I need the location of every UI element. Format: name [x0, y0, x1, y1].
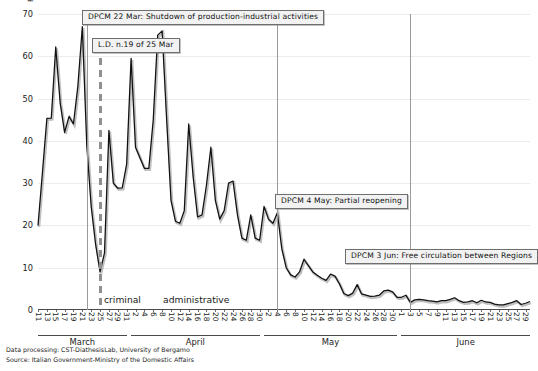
x-axis-tick-label: 26	[238, 312, 245, 321]
y-axis-tick-label: 30	[23, 178, 33, 188]
y-axis-tick-label: 40	[23, 136, 33, 146]
x-axis-tick-label: 15	[460, 312, 467, 321]
x-axis-tick-label: 20	[212, 312, 219, 321]
x-axis-tick-label: 15	[52, 312, 59, 321]
x-axis-tick-label: 14	[318, 312, 325, 321]
x-axis-tick-label: 8	[291, 312, 298, 317]
x-axis-tick-label: 14	[185, 312, 192, 321]
x-axis-tick-label: 30	[256, 312, 263, 321]
credits-data-processing: Data processing: CST-DiathesisLab, Unive…	[6, 345, 194, 355]
data-series-line	[38, 14, 530, 310]
x-axis-tick-label: 19	[70, 312, 77, 321]
x-axis-tick-label: 30	[389, 312, 396, 321]
x-axis-tick-label: 29	[114, 312, 121, 321]
y-axis-tick-label: 50	[23, 94, 33, 104]
x-axis-tick-label: 6	[283, 312, 290, 317]
annotation-reopening: DPCM 4 May: Partial reopening	[275, 194, 408, 209]
x-axis-tick-label: 8	[158, 312, 165, 317]
y-axis-tick-label: 70	[23, 9, 33, 19]
x-axis-tick-label: 1	[398, 312, 405, 317]
x-axis-tick-label: 21	[486, 312, 493, 321]
x-axis-tick-label: 10	[300, 312, 307, 321]
month-rule	[264, 335, 397, 336]
credits-source: Source: Italian Government-Ministry of t…	[6, 355, 194, 365]
annotation-ld19: L.D. n.19 of 25 Mar	[92, 38, 180, 53]
credits-block: Data processing: CST-DiathesisLab, Unive…	[6, 345, 194, 365]
x-axis-tick-label: 23	[87, 312, 94, 321]
annotation-shutdown: DPCM 22 Mar: Shutdown of production-indu…	[82, 10, 324, 25]
x-axis-tick-label: 13	[451, 312, 458, 321]
x-axis-tick-label: 29	[522, 312, 529, 321]
x-axis-tick-label: 11	[442, 312, 449, 321]
month-label-june: June	[457, 337, 475, 347]
x-axis-tick-label: 25	[96, 312, 103, 321]
x-axis-tick-label: 6	[150, 312, 157, 317]
x-axis-tick-label: 22	[220, 312, 227, 321]
annotation-free-movement: DPCM 3 Jun: Free circulation between Reg…	[345, 249, 538, 264]
x-axis-tick-label: 3	[407, 312, 414, 317]
x-axis-tick-label: 4	[274, 312, 281, 317]
x-axis-tick-label: 19	[478, 312, 485, 321]
month-rule	[38, 335, 127, 336]
x-axis-tick-label: 2	[265, 312, 272, 317]
x-axis-tick-label: 7	[424, 312, 431, 317]
y-axis-tick-label: 20	[23, 220, 33, 230]
x-axis-tick-label: 20	[345, 312, 352, 321]
x-axis-tick-label: 17	[469, 312, 476, 321]
x-axis-tick-label: 16	[194, 312, 201, 321]
event-line-free-movement	[410, 14, 411, 310]
y-axis-tick-label: 0	[28, 305, 33, 315]
x-axis-tick-label: 11	[34, 312, 41, 321]
x-axis-tick-label: 31	[123, 312, 130, 321]
x-axis-tick-label: 24	[229, 312, 236, 321]
x-axis-tick-label: 27	[513, 312, 520, 321]
x-axis-tick-label: 5	[415, 312, 422, 317]
x-axis-tick-label: 12	[176, 312, 183, 321]
x-axis-tick-label: 12	[309, 312, 316, 321]
x-axis-tick-label: 16	[327, 312, 334, 321]
plot-area: FINED or REPORTED INDIVIDUALS carried ou…	[38, 14, 530, 310]
month-rule	[131, 335, 260, 336]
x-axis-tick-label: 24	[362, 312, 369, 321]
y-axis-tick-label: 10	[23, 263, 33, 273]
x-axis-tick-label: 17	[61, 312, 68, 321]
x-axis-tick-label: 13	[43, 312, 50, 321]
event-line-reopening	[277, 14, 278, 310]
month-label-may: May	[322, 337, 339, 347]
x-axis-tick-label: 18	[336, 312, 343, 321]
regime-administrative: administrative	[163, 294, 229, 305]
month-rule	[401, 335, 530, 336]
x-axis-tick-label: 23	[495, 312, 502, 321]
x-axis-tick-label: 28	[380, 312, 387, 321]
x-axis-tick-label: 21	[79, 312, 86, 321]
x-axis-tick-label: 18	[203, 312, 210, 321]
regime-criminal: criminal	[104, 294, 141, 305]
x-axis-tick-label: 4	[141, 312, 148, 317]
x-axis-tick-label: 22	[353, 312, 360, 321]
x-axis-tick-label: 9	[433, 312, 440, 317]
x-axis-tick-label: 10	[167, 312, 174, 321]
x-axis-tick-label: 25	[504, 312, 511, 321]
x-axis-tick-label: 2	[132, 312, 139, 317]
x-axis-tick-label: 26	[371, 312, 378, 321]
event-line-shutdown	[87, 14, 88, 310]
event-line-ld19	[99, 58, 102, 310]
x-axis-tick-label: 28	[247, 312, 254, 321]
y-axis-tick-label: 60	[23, 51, 33, 61]
x-axis-tick-label: 27	[105, 312, 112, 321]
